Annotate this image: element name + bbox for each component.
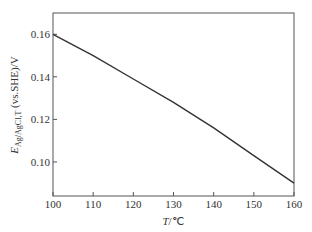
x-axis-ticks: 100110120130140150160 [45,192,303,210]
x-tick-label: 130 [165,198,182,210]
x-tick-label: 150 [246,198,263,210]
y-tick-label: 0.10 [31,156,51,168]
x-tick-label: 160 [286,198,303,210]
x-tick-label: 100 [45,198,62,210]
y-tick-label: 0.14 [31,71,51,83]
x-axis-title: T/℃ [162,215,183,227]
x-tick-label: 110 [85,198,102,210]
y-axis-title: EAg/AgCl,T (vs.SHE)/V [8,56,23,154]
y-tick-label: 0.12 [31,113,50,125]
data-line [53,34,294,183]
plot-frame [53,13,294,196]
x-tick-label: 140 [205,198,222,210]
chart: 100110120130140150160 0.100.120.140.16 T… [0,0,312,232]
x-tick-label: 120 [125,198,142,210]
y-tick-label: 0.16 [31,28,51,40]
